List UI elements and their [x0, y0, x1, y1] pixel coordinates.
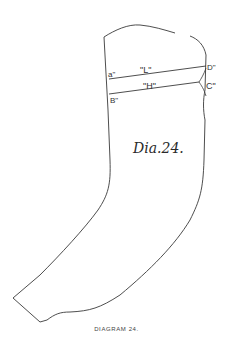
line-label-h: "H" — [143, 81, 156, 91]
point-label-d: D" — [207, 63, 216, 72]
line-label-l: "L" — [140, 65, 151, 75]
point-label-b: B" — [110, 96, 118, 105]
sleeve-cap-curve-left — [104, 25, 175, 37]
sleeve-pattern-diagram: a" B" C" D" "L" "H" Dia.24. — [0, 0, 233, 350]
sleeve-right-edge — [40, 55, 206, 322]
point-label-a: a" — [108, 70, 115, 79]
handwritten-title: Dia.24. — [132, 140, 184, 156]
sleeve-left-edge — [13, 37, 110, 322]
point-label-c: C" — [206, 81, 216, 91]
line-l — [109, 66, 206, 79]
sleeve-cap-curve-right — [190, 36, 206, 55]
figure-caption: DIAGRAM 24. — [0, 326, 233, 332]
